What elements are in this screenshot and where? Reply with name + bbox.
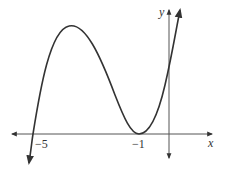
x-axis-label: x — [207, 136, 214, 150]
x-tick-label-neg1: −1 — [132, 137, 145, 151]
cubic-graph: −5 −1 x y — [0, 0, 225, 176]
cubic-curve — [29, 10, 180, 163]
x-tick-label-neg5: −5 — [35, 137, 48, 151]
y-axis-label: y — [158, 5, 165, 19]
